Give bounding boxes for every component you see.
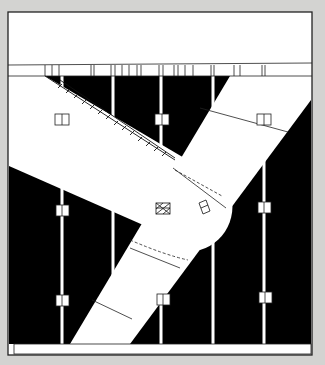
hatched-box xyxy=(156,203,170,214)
bottom-band xyxy=(14,344,311,354)
marker xyxy=(55,114,69,125)
architectural-plan xyxy=(0,0,325,365)
marker xyxy=(56,205,69,216)
marker xyxy=(157,294,170,305)
marker xyxy=(258,202,271,213)
marker xyxy=(257,114,271,125)
marker xyxy=(56,295,69,306)
marker xyxy=(155,114,169,125)
marker xyxy=(259,292,272,303)
